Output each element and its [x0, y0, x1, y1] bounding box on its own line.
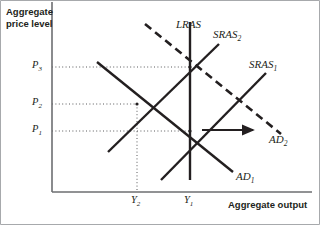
curve-lines	[97, 22, 281, 180]
eq-initial	[188, 129, 191, 132]
curve-label-sras2: SRAS2	[213, 28, 241, 43]
curve-ad1	[97, 62, 233, 172]
curve-label-ad1: AD1	[236, 170, 254, 185]
curve-label-lras: LRAS	[176, 18, 201, 30]
y-axis-title-line2: price level	[6, 18, 53, 30]
curve-sras2	[108, 44, 219, 152]
diagram-svg	[0, 0, 320, 225]
x-tick-Y1: Y1	[184, 194, 193, 208]
eq-short-run	[135, 102, 138, 105]
figure-canvas: Aggregate price level Aggregate output P…	[0, 0, 320, 225]
y-axis-title: Aggregate price level	[6, 6, 53, 29]
x-axis-title: Aggregate output	[228, 199, 307, 211]
y-tick-P2: P2	[32, 96, 42, 110]
eq-long-run	[188, 65, 191, 68]
curve-label-sras1: SRAS1	[249, 58, 277, 73]
y-tick-P1: P1	[32, 123, 42, 137]
y-axis-title-line1: Aggregate	[6, 6, 53, 18]
y-tick-P3: P3	[32, 59, 42, 73]
curve-label-ad2: AD2	[269, 133, 287, 148]
x-tick-Y2: Y2	[131, 194, 140, 208]
axis-lines	[52, 2, 312, 192]
